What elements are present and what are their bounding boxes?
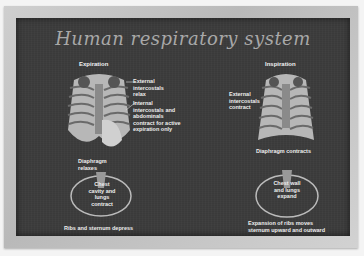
external-intercostals-relax-label: External intercostals relax <box>133 78 173 98</box>
internal-intercostals-label: Internal intercostals and abdominals con… <box>133 100 185 133</box>
poster-title: Human respiratory system <box>16 28 350 49</box>
rib-expansion-label: Expansion of ribs moves sternum upward a… <box>248 220 328 233</box>
chalkboard-poster: Human respiratory system Expiration Exte… <box>16 18 350 236</box>
ribs-sternum-depress-label: Ribs and sternum depress <box>64 225 154 232</box>
external-intercostals-contract-label: External intercostals contract <box>229 91 265 111</box>
expiration-heading: Expiration <box>79 61 108 67</box>
chest-cavity-contract-label: Chest cavity and lungs contract <box>86 181 118 207</box>
expiration-ribcage-illustration <box>64 70 134 152</box>
chest-wall-expand-label: Chest wall and lungs expand <box>270 180 304 200</box>
inspiration-ribcage-illustration <box>256 70 316 150</box>
inspiration-heading: Inspiration <box>265 61 296 67</box>
diaphragm-contracts-label: Diaphragm contracts <box>256 148 326 155</box>
